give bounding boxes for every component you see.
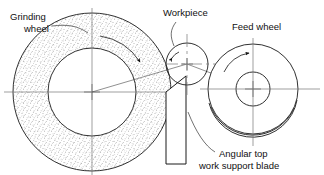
grinding-wheel-label-line2: wheel [23,23,49,34]
workpiece-center-cross-icon [181,58,193,70]
diagram-canvas: Grinding wheel Workpiece Feed wheel Angu… [0,0,324,175]
feed-wheel-label: Feed wheel [232,21,281,32]
grinding-wheel-abrasive-stipple [10,10,176,175]
support-blade-label-line2: work support blade [198,160,279,171]
work-support-blade-outline [166,76,186,164]
feed-wheel [200,38,320,146]
work-support-blade [166,76,186,164]
support-blade-leader-line-icon [188,112,215,152]
grinding-wheel-label-line1: Grinding [10,11,46,22]
support-blade-label-line1: Angular top [219,148,268,159]
centerless-grinding-diagram: Grinding wheel Workpiece Feed wheel Angu… [0,0,324,175]
workpiece-label: Workpiece [163,7,208,18]
